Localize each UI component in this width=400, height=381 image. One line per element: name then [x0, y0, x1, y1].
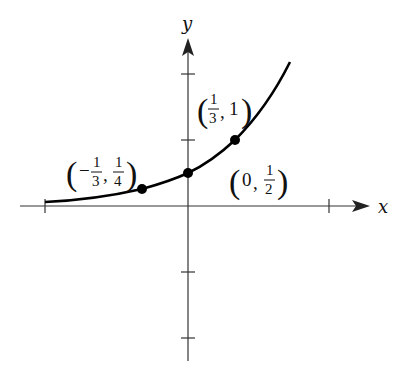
svg-text:0: 0 [242, 169, 252, 190]
svg-text:1: 1 [93, 154, 101, 170]
svg-text:): ) [277, 163, 288, 201]
svg-text:,: , [103, 164, 108, 185]
label-point-zero: ( 0 , 1 2 ) [229, 162, 288, 201]
svg-text:,: , [220, 101, 225, 122]
y-axis-label: y [181, 13, 193, 34]
svg-text:2: 2 [265, 181, 273, 197]
svg-text:3: 3 [209, 110, 217, 126]
svg-text:4: 4 [114, 173, 122, 189]
svg-text:1: 1 [266, 162, 274, 178]
svg-text:1: 1 [229, 98, 239, 119]
svg-text:−: − [79, 160, 90, 181]
label-point-neg-third: ( − 1 3 , 1 4 ) [66, 154, 137, 193]
svg-text:3: 3 [92, 173, 100, 189]
svg-text:): ) [126, 155, 137, 193]
x-axis-label: x [378, 196, 388, 217]
svg-text:(: ( [229, 163, 240, 201]
svg-text:): ) [241, 92, 252, 130]
exponential-graph: x y ( − 1 3 , 1 4 ) ( 1 3 , 1 ) [0, 0, 400, 381]
svg-text:,: , [253, 172, 258, 193]
svg-text:(: ( [197, 92, 208, 130]
svg-text:(: ( [66, 155, 77, 193]
point-zero [183, 168, 193, 178]
svg-text:1: 1 [210, 91, 218, 107]
y-axis: y [181, 13, 195, 361]
point-third [230, 135, 240, 145]
point-neg-third [137, 184, 147, 194]
svg-text:1: 1 [115, 154, 123, 170]
label-point-third: ( 1 3 , 1 ) [197, 91, 252, 130]
